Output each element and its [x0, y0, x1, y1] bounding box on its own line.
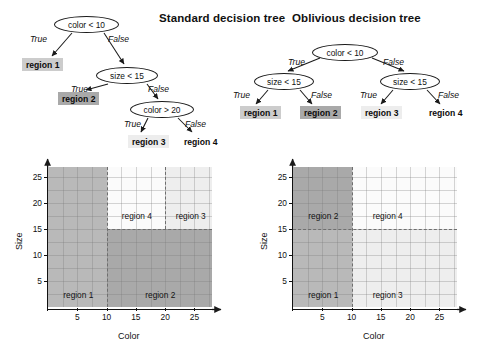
oblivious-x-tick-label: 10: [339, 312, 365, 322]
standard-x-tick-label: 15: [123, 312, 149, 322]
standard-x-axis: [47, 309, 217, 310]
oblivious-x-tick: [322, 308, 323, 311]
oblivious-x-tick: [352, 308, 353, 311]
standard-boundary-3: [165, 167, 166, 229]
standard-gridline-v: [136, 167, 137, 307]
standard-tree-title: Standard decision tree: [159, 12, 285, 24]
edge-label-oblivious-left-false: False: [311, 90, 332, 100]
standard-y-tick: [44, 255, 47, 256]
oblivious-gridline-v: [439, 167, 440, 307]
oblivious-gridline-h: [293, 177, 457, 178]
oblivious-gridline-h: [293, 203, 457, 204]
standard-gridline-h: [48, 177, 212, 178]
standard-x-tick: [77, 308, 78, 311]
edge-label-standard-root-true: True: [30, 34, 47, 44]
oblivious-gridline-h: [293, 242, 457, 243]
oblivious-y-tick-label: 25: [265, 172, 287, 182]
edge-label-standard-color20-false: False: [185, 119, 206, 129]
oblivious-gridline-h: [293, 281, 457, 282]
standard-gridline-h: [48, 190, 212, 191]
standard-region-label: region 3: [168, 211, 212, 221]
standard-y-tick: [44, 203, 47, 204]
oblivious-gridline-v: [337, 167, 338, 307]
edge-label-oblivious-right-false: False: [438, 90, 459, 100]
oblivious-gridline-v: [410, 167, 411, 307]
standard-gridline-h: [48, 255, 212, 256]
oblivious-x-tick: [410, 308, 411, 311]
node-oblivious-right-size15: size < 15: [380, 73, 440, 90]
standard-gridline-v: [194, 167, 195, 307]
oblivious-boundary-2: [293, 229, 457, 230]
standard-x-tick-label: 20: [152, 312, 178, 322]
standard-gridline-h: [48, 203, 212, 204]
leaf-oblivious-region-2: region 2: [300, 106, 341, 119]
oblivious-tree-title: Oblivious decision tree: [292, 12, 421, 24]
standard-x-tick-label: 10: [94, 312, 120, 322]
oblivious-region-label: region 1: [300, 290, 346, 300]
oblivious-x-tick-label: 15: [368, 312, 394, 322]
oblivious-partition-plot: region 1region 2region 3region 4 Size Co…: [245, 155, 489, 357]
oblivious-x-tick-label: 5: [309, 312, 335, 322]
edge-label-standard-root-false: False: [108, 34, 129, 44]
oblivious-gridline-v: [381, 167, 382, 307]
standard-gridline-h: [48, 281, 212, 282]
node-standard-size15: size < 15: [96, 67, 158, 84]
edge-label-standard-size-false: False: [148, 84, 169, 94]
oblivious-gridline-h: [293, 268, 457, 269]
leaf-standard-region-1: region 1: [22, 58, 63, 71]
oblivious-y-tick: [289, 203, 292, 204]
standard-x-tick-label: 5: [64, 312, 90, 322]
standard-x-tick: [107, 308, 108, 311]
standard-x-tick: [165, 308, 166, 311]
standard-gridline-v: [180, 167, 181, 307]
standard-x-tick-label: 25: [181, 312, 207, 322]
standard-x-axis-label: Color: [118, 331, 140, 341]
oblivious-region-label: region 3: [365, 290, 411, 300]
oblivious-x-axis-label: Color: [363, 331, 385, 341]
leaf-oblivious-region-1: region 1: [240, 106, 281, 119]
leaf-oblivious-region-3: region 3: [361, 106, 402, 119]
standard-gridline-h: [48, 268, 212, 269]
leaf-standard-region-4: region 4: [180, 135, 221, 148]
leaf-oblivious-region-4: region 4: [425, 106, 466, 119]
oblivious-y-tick-label: 5: [265, 276, 287, 286]
oblivious-y-tick-label: 10: [265, 250, 287, 260]
oblivious-y-tick: [289, 177, 292, 178]
standard-y-tick-label: 5: [20, 276, 42, 286]
oblivious-gridline-v: [308, 167, 309, 307]
oblivious-y-axis-label: Size: [259, 232, 269, 250]
oblivious-plot-area: region 1region 2region 3region 4: [293, 167, 457, 307]
oblivious-gridline-v: [396, 167, 397, 307]
oblivious-gridline-v: [366, 167, 367, 307]
standard-y-axis: [47, 163, 48, 311]
standard-gridline-v: [121, 167, 122, 307]
standard-boundary-2: [107, 229, 212, 230]
standard-partition-plot: region 1region 2region 4region 3 Size Co…: [0, 155, 245, 357]
standard-y-tick-label: 15: [20, 224, 42, 234]
oblivious-y-tick: [289, 229, 292, 230]
edge-label-oblivious-root-false: False: [383, 57, 404, 67]
oblivious-gridline-h: [293, 255, 457, 256]
standard-y-axis-label: Size: [14, 232, 24, 250]
node-standard-root: color < 10: [54, 16, 119, 33]
standard-y-tick: [44, 281, 47, 282]
standard-x-tick: [136, 308, 137, 311]
oblivious-gridline-v: [454, 167, 455, 307]
oblivious-x-tick: [381, 308, 382, 311]
standard-region-label: region 1: [55, 290, 101, 300]
oblivious-boundary-1: [352, 167, 353, 307]
oblivious-x-tick-label: 25: [426, 312, 452, 322]
leaf-standard-region-3: region 3: [128, 135, 169, 148]
standard-gridline-v: [77, 167, 78, 307]
oblivious-gridline-h: [293, 190, 457, 191]
oblivious-x-tick-label: 20: [397, 312, 423, 322]
oblivious-y-axis: [292, 163, 293, 311]
standard-y-tick: [44, 177, 47, 178]
edge-label-standard-size-true: True: [71, 84, 88, 94]
oblivious-region-label: region 2: [300, 211, 346, 221]
standard-y-tick-label: 25: [20, 172, 42, 182]
oblivious-gridline-v: [322, 167, 323, 307]
standard-gridline-v: [92, 167, 93, 307]
standard-x-tick: [194, 308, 195, 311]
edge-label-oblivious-root-true: True: [288, 57, 305, 67]
